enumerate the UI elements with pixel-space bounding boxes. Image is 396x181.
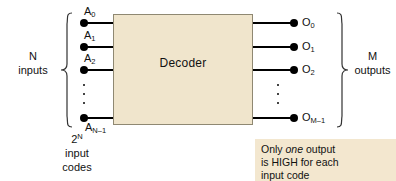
- outputs-group-label-line2: outputs: [349, 64, 396, 78]
- note-line-1: Only one output: [261, 143, 396, 156]
- inputs-group-label-line1: N: [8, 50, 58, 64]
- output-pin-dot-o0[interactable]: [290, 19, 298, 27]
- output-pin-label-om: OM–1: [302, 112, 325, 123]
- output-brace: [335, 12, 349, 128]
- note-box: Only one output is HIGH for each input c…: [255, 139, 396, 181]
- input-wire-a2: [84, 69, 114, 71]
- input-wire-a0: [84, 22, 114, 24]
- input-pin-label-an: AN–1: [85, 122, 106, 133]
- input-codes-exponent: N: [77, 132, 82, 141]
- input-wire-a1: [84, 46, 114, 48]
- note-line-2: is HIGH for each: [261, 156, 396, 169]
- input-wire-an: [84, 117, 114, 119]
- input-codes-line3: codes: [42, 161, 112, 175]
- input-codes-line1: 2N: [42, 133, 112, 147]
- output-pin-dot-o1[interactable]: [290, 43, 298, 51]
- outputs-group-label: M outputs: [349, 50, 396, 78]
- input-pin-label-a2: A2: [84, 53, 96, 64]
- note-emphasis: one: [286, 143, 304, 155]
- input-pin-label-a0: A0: [84, 6, 96, 17]
- input-codes-label: 2N input codes: [42, 133, 112, 174]
- note-line-3: input code: [261, 169, 396, 181]
- output-pin-label-o0: O0: [302, 17, 315, 28]
- output-pin-label-o2: O2: [302, 64, 315, 75]
- note-text: Only one output is HIGH for each input c…: [261, 143, 396, 181]
- output-pin-dot-om[interactable]: [290, 114, 298, 122]
- output-ellipsis: [277, 84, 279, 111]
- inputs-group-label-line2: inputs: [8, 64, 58, 78]
- input-ellipsis: [83, 84, 85, 111]
- inputs-group-label: N inputs: [8, 50, 58, 78]
- output-wire-o0: [253, 22, 293, 24]
- output-wire-o2: [253, 69, 293, 71]
- output-pin-label-o1: O1: [302, 41, 315, 52]
- decoder-block-label: Decoder: [113, 56, 253, 70]
- input-pin-label-a1: A1: [84, 30, 96, 41]
- input-brace: [60, 12, 74, 128]
- input-codes-line2: input: [42, 147, 112, 161]
- output-wire-o1: [253, 46, 293, 48]
- decoder-diagram: N inputs 2N input codes A0 A1 A2 AN–1 De…: [0, 0, 396, 181]
- output-wire-om: [253, 117, 293, 119]
- output-pin-dot-o2[interactable]: [290, 66, 298, 74]
- outputs-group-label-line1: M: [349, 50, 396, 64]
